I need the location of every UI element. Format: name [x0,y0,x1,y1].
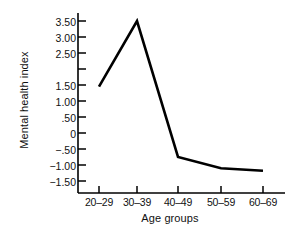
y-axis-tick-labels: 3.50 3.00 2.50 1.50 1.00 .50 0 −.50 −1.0… [36,0,76,240]
y-tick-label: −1.50 [49,177,76,187]
y-tick-marks [78,21,86,181]
y-axis-title: Mental health index [18,51,30,148]
x-tick-label: 60–69 [249,196,277,208]
y-tick-label: 1.00 [56,97,76,107]
y-tick-label: 0 [70,129,76,139]
x-tick-label: 50–59 [207,196,235,208]
y-tick-label: −1.00 [49,161,76,171]
y-tick-label: 2.50 [56,49,76,59]
y-tick-label: .50 [61,113,76,123]
y-tick-label: 1.50 [56,81,76,91]
data-series-line [99,21,263,171]
x-axis-title: Age groups [70,212,270,224]
x-tick-label: 30–39 [123,196,151,208]
chart-figure: Mental health index 3.50 3.00 2.50 1.50 … [0,0,297,240]
y-axis-title-container: Mental health index [10,0,38,200]
y-tick-label: 3.50 [56,17,76,27]
x-tick-label: 20–29 [85,196,113,208]
y-tick-label: 3.00 [56,33,76,43]
y-tick-label: −.50 [55,145,76,155]
x-tick-marks [99,186,263,193]
x-tick-label: 40–49 [164,196,192,208]
